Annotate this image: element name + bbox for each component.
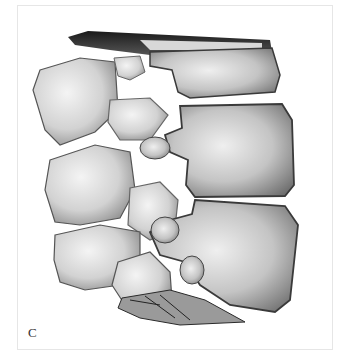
vertebral-body-2	[108, 98, 294, 197]
panel-label: C	[28, 325, 37, 341]
spine-3d-rendering	[0, 0, 350, 364]
